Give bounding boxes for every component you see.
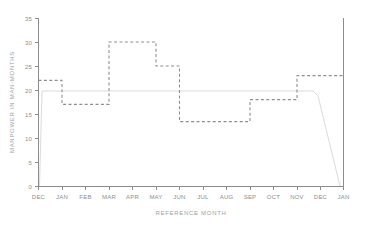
x-tick-label-11: NOV — [290, 194, 304, 200]
x-tick-label-7: JUL — [197, 194, 209, 200]
y-tick-label-15: 15 — [25, 112, 33, 118]
x-tick-label-2: FEB — [79, 194, 91, 200]
x-axis-title: REFERENCE MONTH — [155, 210, 226, 216]
x-tick-labels: DEC JAN FEB MAR APR MAY JUN JUL AUG SEP … — [32, 194, 350, 200]
y-tick-label-0: 0 — [28, 184, 32, 190]
chart-container: 35 30 25 20 15 10 5 0 — [0, 0, 365, 225]
x-tick-label-1: JAN — [56, 194, 68, 200]
x-tick-label-5: MAY — [149, 194, 162, 200]
y-tick-label-30: 30 — [25, 40, 33, 46]
x-tick-group — [39, 187, 344, 191]
y-tick-labels: 35 30 25 20 15 10 5 0 — [25, 16, 33, 190]
y-tick-group — [35, 19, 39, 187]
x-tick-label-10: OCT — [267, 194, 280, 200]
manpower-step-chart: 35 30 25 20 15 10 5 0 — [0, 0, 365, 225]
x-tick-label-0: DEC — [32, 194, 46, 200]
x-tick-label-3: MAR — [102, 194, 116, 200]
y-axis-title: MANPOWER IN MAN-MONTHS — [9, 51, 15, 153]
y-tick-label-35: 35 — [25, 16, 33, 22]
x-tick-label-4: APR — [126, 194, 139, 200]
x-tick-label-6: JUN — [173, 194, 185, 200]
x-tick-label-8: AUG — [220, 194, 234, 200]
y-tick-label-20: 20 — [25, 88, 33, 94]
y-tick-label-10: 10 — [25, 136, 33, 142]
y-tick-label-5: 5 — [28, 160, 32, 166]
baseline-series — [40, 91, 341, 186]
x-tick-label-9: SEP — [244, 194, 257, 200]
y-tick-label-25: 25 — [25, 64, 33, 70]
x-tick-label-13: JAN — [338, 194, 350, 200]
x-tick-label-12: DEC — [314, 194, 328, 200]
planned-manpower-series — [39, 42, 344, 122]
